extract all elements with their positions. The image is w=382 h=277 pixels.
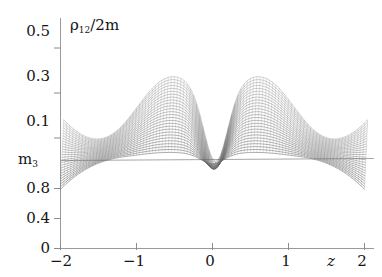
y-axis-title: ρ12/2m: [70, 16, 119, 34]
y-axis-ticks: [54, 48, 61, 249]
axis-break-label-m3: m3: [18, 150, 38, 168]
x-tick-label-neg2: −2: [46, 252, 76, 270]
y-tick-label-0: 0: [8, 239, 50, 257]
surface-plot-figure: ρ12/2m 0.5 0.3 0.1 m3 0.8 0.4 0 −2 −1 0 …: [0, 0, 382, 277]
y-tick-label-0.1: 0.1: [8, 112, 50, 130]
x-tick-label-2: 2: [347, 252, 377, 270]
y-tick-label-0.4: 0.4: [8, 209, 50, 227]
x-tick-label-neg1: −1: [119, 252, 149, 270]
x-tick-label-0: 0: [195, 252, 225, 270]
y-tick-label-0.5: 0.5: [8, 22, 50, 40]
axis-lines: [61, 18, 375, 249]
surface-cross-line: [241, 84, 244, 153]
x-axis-title: z: [327, 252, 335, 270]
y-tick-label-0.8: 0.8: [8, 179, 50, 197]
wireframe-surface: [61, 77, 368, 190]
surface-cross-line: [156, 82, 159, 153]
x-tick-label-1: 1: [271, 252, 301, 270]
surface-cross-line: [184, 84, 187, 153]
surface-cross-line: [143, 96, 146, 155]
plot-canvas: [0, 0, 382, 277]
surface-cross-line: [159, 80, 162, 153]
surface-cross-line: [140, 100, 143, 155]
y-tick-label-0.3: 0.3: [8, 67, 50, 85]
